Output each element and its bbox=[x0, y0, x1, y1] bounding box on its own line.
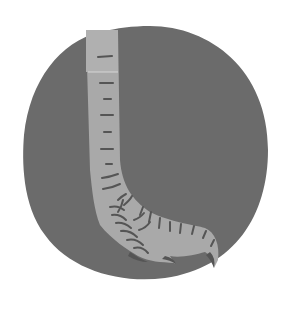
bird-foot-illustration bbox=[0, 0, 291, 309]
leg-top-band bbox=[86, 30, 118, 72]
illustration-canvas bbox=[0, 0, 291, 309]
